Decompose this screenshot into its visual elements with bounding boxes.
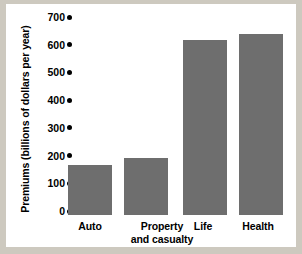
y-axis-tick-400: 400 [28, 94, 72, 106]
bar-health[interactable] [239, 34, 283, 216]
bar-property-and-casualty[interactable] [124, 158, 168, 215]
x-axis-category-label-health: Health [226, 220, 290, 233]
y-axis-tick-0: 0 [28, 205, 72, 217]
y-axis-tick-600: 600 [28, 39, 72, 51]
bars-area [68, 21, 288, 215]
y-axis-tick-label: 500 [47, 66, 65, 78]
bar-life[interactable] [183, 40, 227, 215]
y-axis-tick-label: 700 [47, 11, 65, 23]
y-axis-tick-200: 200 [28, 150, 72, 162]
category-line-2: and casualty [106, 233, 218, 246]
y-axis-tick-300: 300 [28, 122, 72, 134]
y-axis-tick-500: 500 [28, 66, 72, 78]
y-axis-tick-label: 600 [47, 39, 65, 51]
plot-canvas: Premiums (billions of dollars per year) … [6, 4, 296, 247]
category-line-1: Health [226, 220, 290, 233]
y-axis-tick-label: 0 [59, 205, 65, 217]
y-axis-tick-label: 400 [47, 94, 65, 106]
chart-figure: Premiums (billions of dollars per year) … [0, 0, 302, 254]
y-axis-tick-label: 100 [47, 177, 65, 189]
y-axis-tick-label: 300 [47, 122, 65, 134]
y-axis-tick-700: 700 [28, 11, 72, 23]
bar-auto[interactable] [68, 165, 112, 215]
filled-dot-marker-icon [67, 15, 72, 20]
y-axis-tick-100: 100 [28, 177, 72, 189]
y-axis-tick-label: 200 [47, 150, 65, 162]
